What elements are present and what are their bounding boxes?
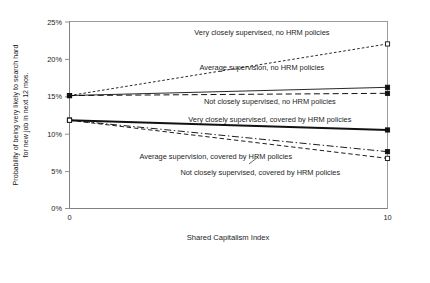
series-marker xyxy=(385,42,389,46)
series-marker xyxy=(67,118,71,122)
series-label-average-supervision-hrm: Average supervision, covered by HRM poli… xyxy=(139,152,292,161)
x-tick-label-10: 10 xyxy=(383,213,391,222)
series-label-very-closely-supervised-hrm: Very closely supervised, covered by HRM … xyxy=(188,115,351,124)
y-tick-label-0: 0% xyxy=(51,204,62,213)
y-tick-label-5: 5% xyxy=(51,167,62,176)
y-axis-ticks xyxy=(65,22,70,209)
series-marker xyxy=(67,93,71,97)
chart-figure: 25% 20% 15% 10% 5% 0% 0 10 Shared Capita… xyxy=(0,0,430,283)
line-chart-canvas: 25% 20% 15% 10% 5% 0% 0 10 Shared Capita… xyxy=(0,0,430,283)
y-tick-label-25: 25% xyxy=(47,18,62,27)
series-label-average-supervision-no-hrm: Average supervision, no HRM policies xyxy=(200,63,325,72)
series-marker xyxy=(385,85,389,89)
x-tick-label-0: 0 xyxy=(67,213,71,222)
y-axis-title-line1: Probability of being very likely to sear… xyxy=(12,45,20,186)
series-labels: Very closely supervised, no HRM policies… xyxy=(139,28,351,177)
series-marker xyxy=(385,150,389,154)
series-label-very-closely-supervised-no-hrm: Very closely supervised, no HRM policies xyxy=(194,28,329,37)
y-tick-label-15: 15% xyxy=(47,92,62,101)
series-line-average-supervision-no-hrm xyxy=(70,87,388,95)
y-tick-label-10: 10% xyxy=(47,130,62,139)
series-label-not-closely-supervised-hrm: Not closely supervised, covered by HRM p… xyxy=(180,168,340,177)
y-axis-title: Probability of being very likely to sear… xyxy=(12,45,30,186)
series-marker xyxy=(385,91,389,95)
series-label-not-closely-supervised-no-hrm: Not closely supervised, no HRM policies xyxy=(204,97,336,106)
y-tick-label-20: 20% xyxy=(47,55,62,64)
series-marker xyxy=(385,128,389,132)
y-axis-title-line2: for new job in next 12 mos. xyxy=(22,73,30,158)
x-axis-title: Shared Capitalism Index xyxy=(187,233,270,242)
series-marker xyxy=(385,156,389,160)
